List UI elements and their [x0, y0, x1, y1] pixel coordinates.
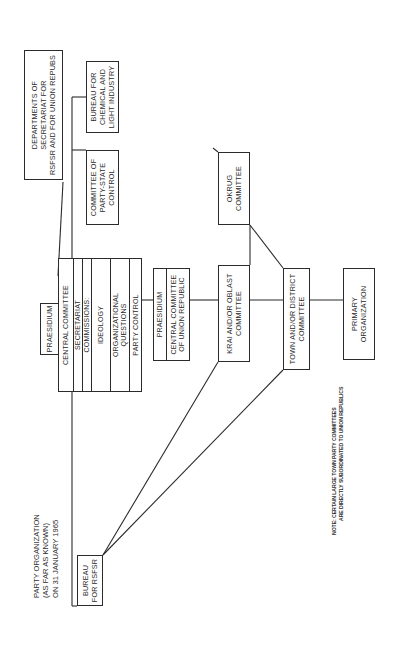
okrug-line-1: OKRUG [225, 175, 234, 202]
commissions-header-cell: COMMISSIONS: [82, 259, 91, 391]
bcl-line-3: LIGHT INDUSTRY [107, 66, 116, 128]
note-line-1: NOTE: CERTAIN LARGE TOWN PARTY COMMITTEE… [331, 387, 338, 535]
bcl-line-1: BUREAU FOR [89, 72, 98, 121]
dept-line-2: SECRETARIAT FOR [39, 80, 48, 149]
orgq-line-1: ORGANIZATIONAL [112, 293, 120, 357]
secretariat-label: SECRETARIAT [74, 300, 82, 350]
union-republic-block[interactable]: PRAESIDIUM CENTRAL COMMITTEE OF UNION RE… [153, 268, 190, 361]
ur-praesidium-label: PRAESIDIUM [156, 292, 164, 338]
ur-cc-line-1: CENTRAL COMMITTEE [170, 275, 178, 355]
bureau-rsfsr-box[interactable]: BUREAU FOR RSFSR [77, 555, 103, 606]
town-line-1: TOWN AND/OR DISTRICT [288, 274, 297, 365]
ideology-label: IDEOLOGY [97, 306, 105, 344]
orgq-line-2: QUESTIONS [120, 303, 128, 346]
party-state-control-box[interactable]: COMMITTEE OF PARTY-STATE CONTROL [86, 150, 119, 225]
party-control-label: PARTY CONTROL [132, 294, 140, 355]
ur-central-committee-cell[interactable]: CENTRAL COMMITTEE OF UNION REPUBLIC [166, 269, 189, 360]
note-line-2: ARE DIRECTLY SUBORDINATED TO UNION REPUB… [338, 387, 345, 535]
footnote: NOTE: CERTAIN LARGE TOWN PARTY COMMITTEE… [331, 387, 345, 535]
commission-ideology-cell[interactable]: IDEOLOGY [91, 259, 110, 391]
krai-line-1: KRAI AND/OR OBLAST [225, 273, 234, 353]
town-line-2: COMMITTEE [297, 297, 306, 342]
secretariat-cell[interactable]: SECRETARIAT [73, 259, 82, 391]
town-district-box[interactable]: TOWN AND/OR DISTRICT COMMITTEE [283, 268, 310, 370]
cpsc-line-2: PARTY-STATE [98, 163, 107, 212]
praesidium-label: PRAESIDIUM [45, 306, 54, 353]
cpsc-line-3: CONTROL [107, 169, 116, 206]
chart-title: PARTY ORGANIZATION (AS FAR AS KNOWN) ON … [32, 514, 60, 598]
okrug-line-2: COMMITTEE [234, 166, 243, 211]
cpsc-line-1: COMMITTEE OF [89, 159, 98, 217]
brsfsr-line-2: FOR RSFSR [90, 559, 99, 602]
primary-line-1: PRIMARY [350, 297, 359, 331]
cc-label: CENTRAL COMMITTEE [62, 285, 70, 365]
commission-org-questions-cell[interactable]: ORGANIZATIONAL QUESTIONS [110, 259, 129, 391]
bcl-line-2: CHEMICAL AND [98, 69, 107, 125]
departments-secretariat-box[interactable]: DEPARTMENTS OF SECRETARIAT FOR RSFSR AND… [24, 50, 63, 180]
title-line-3: ON 31 JANUARY 1965 [51, 514, 60, 598]
central-committee-cell[interactable]: CENTRAL COMMITTEE [59, 259, 73, 391]
okrug-box[interactable]: OKRUG COMMITTEE [218, 152, 250, 225]
title-line-2: (AS FAR AS KNOWN) [41, 514, 50, 598]
primary-organization-box[interactable]: PRIMARY ORGANIZATION [343, 268, 375, 360]
dept-line-3: RSFSR AND FOR UNION REPUBS [48, 55, 57, 175]
commissions-label: COMMISSIONS: [83, 298, 91, 353]
title-line-1: PARTY ORGANIZATION [32, 514, 41, 598]
krai-oblast-box[interactable]: KRAI AND/OR OBLAST COMMITTEE [218, 265, 250, 362]
ur-cc-line-2: OF UNION REPUBLIC [178, 277, 186, 352]
commission-party-control-cell[interactable]: PARTY CONTROL [129, 259, 142, 391]
org-chart-canvas: PARTY ORGANIZATION (AS FAR AS KNOWN) ON … [0, 0, 399, 666]
central-committee-block[interactable]: CENTRAL COMMITTEE SECRETARIAT COMMISSION… [58, 258, 142, 392]
brsfsr-line-1: BUREAU [81, 565, 90, 596]
praesidium-box[interactable]: PRAESIDIUM [40, 303, 59, 355]
dept-line-1: DEPARTMENTS OF [30, 81, 39, 149]
krai-line-2: COMMITTEE [234, 291, 243, 336]
primary-line-2: ORGANIZATION [359, 286, 368, 343]
bureau-chemical-light-box[interactable]: BUREAU FOR CHEMICAL AND LIGHT INDUSTRY [86, 61, 119, 133]
ur-praesidium-cell[interactable]: PRAESIDIUM [154, 269, 166, 360]
